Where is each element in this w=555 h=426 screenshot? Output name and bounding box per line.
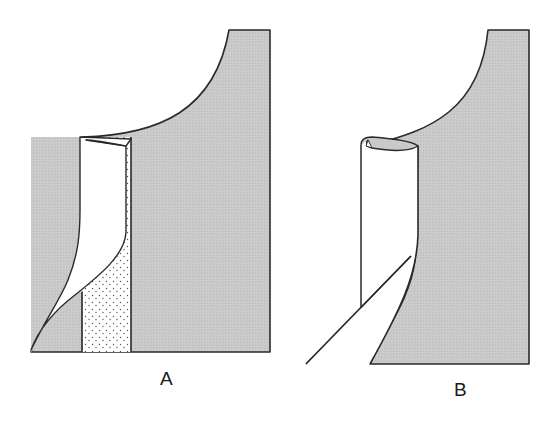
panel-label-b: B <box>454 380 467 399</box>
panel-b <box>306 30 529 364</box>
panel-a <box>31 30 270 352</box>
sewing-diagram <box>0 0 555 426</box>
panel-label-a: A <box>160 369 173 388</box>
